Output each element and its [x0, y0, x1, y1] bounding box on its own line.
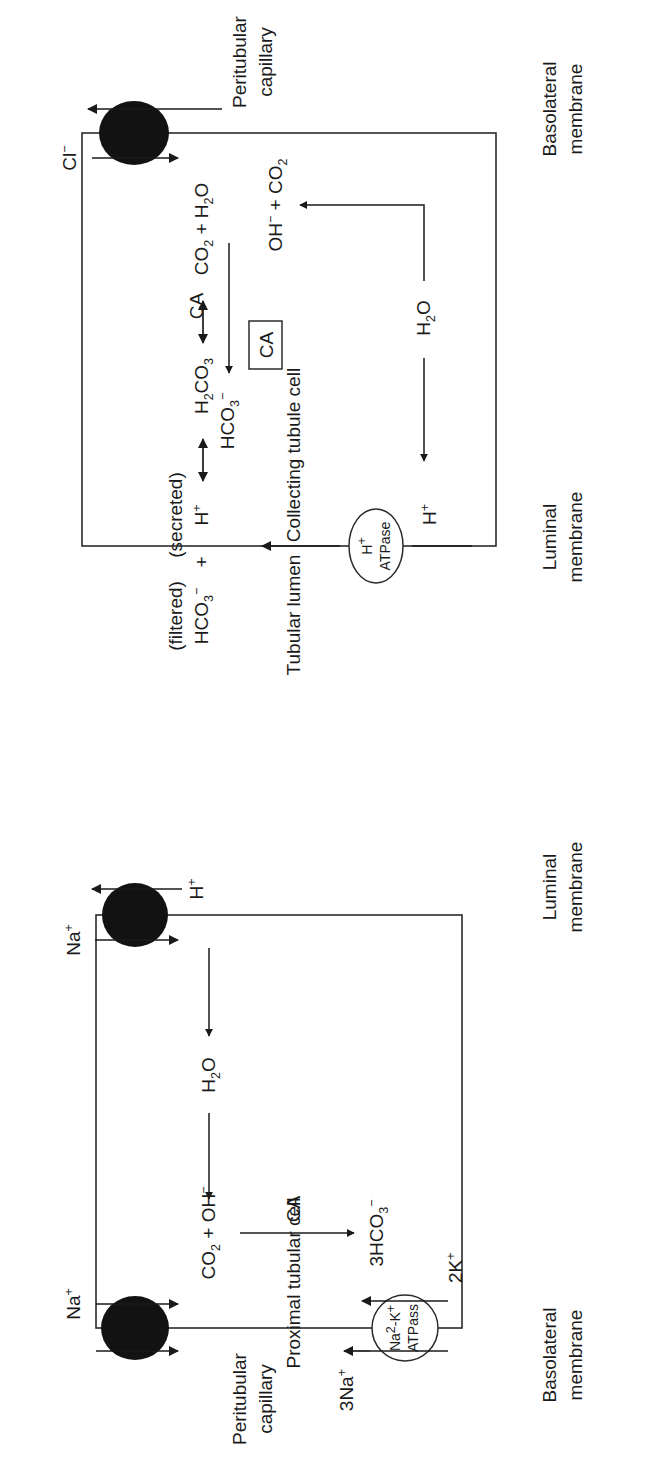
- rotated-figure-wrapper: Na2-K+ ATPass 3Na+ 2K+ Na+ H+ H2O CO2 + …: [0, 0, 646, 1461]
- label-proximal-luminal-line2: membrane: [565, 842, 586, 933]
- label-collecting-basolateral-line1: Basolateral: [539, 61, 560, 156]
- label-proximal-basolateral-line1: Basolateral: [539, 1307, 560, 1402]
- label-plus-lumen: +: [191, 556, 212, 567]
- label-proximal-basolateral-line2: membrane: [565, 1310, 586, 1401]
- label-water-collecting: H2O: [413, 300, 438, 335]
- h-atpase-pump: [349, 509, 403, 583]
- label-peritubular-capillary-left-line2: capillary: [255, 1364, 276, 1434]
- label-collecting-basolateral-line2: membrane: [565, 64, 586, 155]
- cl-hco3-exchanger: [99, 101, 169, 165]
- label-3hco3-proximal: 3HCO3−: [365, 1199, 391, 1266]
- label-hco3-filtered: HCO3−: [190, 588, 216, 645]
- label-tubular-lumen: Tubular lumen: [283, 555, 304, 676]
- h-atpase-label-line2: ATPase: [377, 521, 393, 570]
- label-proximal-luminal-line1: Luminal: [539, 854, 560, 921]
- arrow-water-to-oh-co2: [300, 205, 424, 281]
- proximal-tubular-cell-box: [96, 915, 462, 1328]
- diagram-canvas: Na2-K+ ATPass 3Na+ 2K+ Na+ H+ H2O CO2 + …: [0, 0, 646, 1461]
- label-collecting-tubule-cell: Collecting tubule cell: [283, 368, 304, 542]
- label-collecting-luminal-line2: membrane: [565, 492, 586, 583]
- label-peritubular-capillary-right-line1: Peritubular: [229, 15, 250, 108]
- label-h2co3: H2CO3: [191, 358, 216, 414]
- label-proximal-tubular-cell: Proximal tubular cell: [283, 1197, 304, 1368]
- label-hco3-collecting: HCO3−: [216, 393, 242, 450]
- label-filtered-note: (filtered): [165, 581, 186, 651]
- kidney-acid-base-diagram: Na2-K+ ATPass 3Na+ 2K+ Na+ H+ H2O CO2 + …: [0, 0, 646, 1461]
- label-water-proximal: H2O: [198, 1057, 223, 1092]
- label-collecting-luminal-line1: Luminal: [539, 504, 560, 571]
- label-oh-co2-collecting: OH− + CO2: [264, 158, 290, 251]
- na-k-atpase-label-line2: ATPass: [405, 1304, 421, 1352]
- na-h-exchanger-proximal: [102, 883, 168, 947]
- label-3na: 3Na+: [335, 1369, 357, 1411]
- label-peritubular-capillary-right-line2: capillary: [255, 27, 276, 97]
- label-h-intracellular-collecting: H+: [418, 504, 440, 525]
- label-ca-boxed: CA: [256, 331, 277, 358]
- label-peritubular-capillary-left-line1: Peritubular: [229, 1352, 250, 1445]
- label-na-basolateral: Na+: [62, 1288, 84, 1320]
- label-co2-oh-proximal: CO2 + OH−: [197, 1187, 223, 1280]
- label-h-lumen: H+: [190, 504, 212, 525]
- label-na-luminal: Na+: [62, 924, 84, 956]
- label-ca-collecting: CA: [186, 292, 207, 319]
- label-secreted-note: (secreted): [165, 472, 186, 558]
- label-h-secreted-proximal: H+: [185, 878, 207, 899]
- label-co2-h2o-lumen: CO2 + H2O: [191, 183, 216, 276]
- label-cl: Cl−: [58, 145, 80, 170]
